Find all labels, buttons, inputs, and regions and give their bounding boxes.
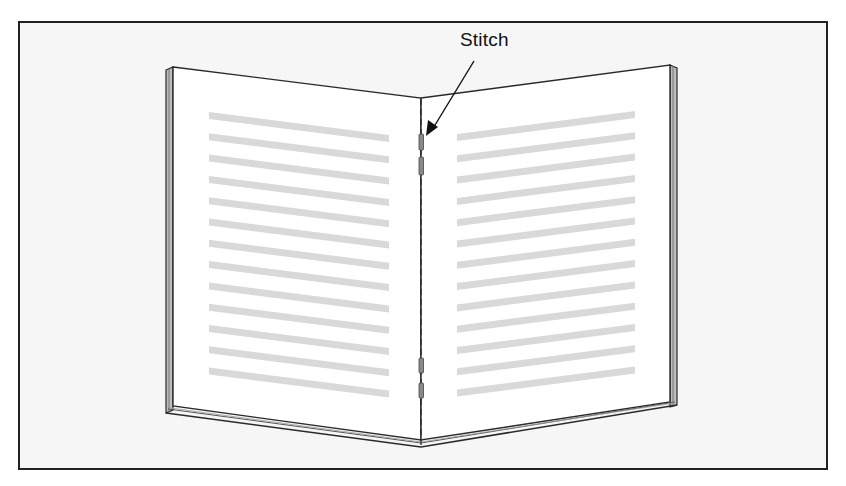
stitch-mark	[419, 358, 424, 373]
stitch-mark	[419, 157, 424, 175]
right-page-edge	[670, 65, 677, 407]
stitch-mark	[419, 383, 424, 398]
left-page-edge	[166, 67, 173, 413]
stitch-mark	[419, 134, 424, 150]
stitch-label: Stitch	[460, 29, 509, 51]
open-book-diagram	[0, 0, 846, 486]
